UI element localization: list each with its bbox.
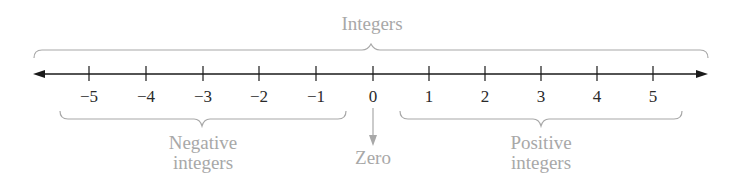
positive-integers-label: Positive integers	[510, 133, 571, 173]
tick-label-4: 4	[593, 88, 602, 106]
positive-integers-line2: integers	[510, 153, 571, 173]
tick-label-5: 5	[649, 88, 658, 106]
integers-brace	[34, 44, 708, 58]
tick-label-3: 3	[537, 88, 546, 106]
integer-number-line-diagram: Integers −5 −4 −3 −2 −1 0 1 2 3 4 5 Nega…	[0, 0, 740, 190]
tick-label-0: 0	[369, 88, 378, 106]
zero-pointer-arrow-icon	[369, 135, 377, 146]
right-arrow-icon	[696, 70, 708, 78]
negative-integers-line2: integers	[169, 153, 238, 173]
tick-label-neg3: −3	[194, 88, 212, 106]
negative-integers-brace	[60, 111, 346, 126]
tick-label-1: 1	[425, 88, 434, 106]
negative-integers-line1: Negative	[169, 133, 238, 153]
positive-integers-line1: Positive	[510, 133, 571, 153]
integers-title: Integers	[341, 14, 402, 34]
tick-label-neg4: −4	[137, 88, 155, 106]
negative-integers-label: Negative integers	[169, 133, 238, 173]
tick-label-2: 2	[481, 88, 490, 106]
tick-label-neg1: −1	[307, 88, 325, 106]
positive-integers-brace	[400, 111, 682, 126]
tick-label-neg5: −5	[80, 88, 98, 106]
tick-label-neg2: −2	[250, 88, 268, 106]
zero-label: Zero	[355, 148, 391, 168]
left-arrow-icon	[33, 70, 45, 78]
